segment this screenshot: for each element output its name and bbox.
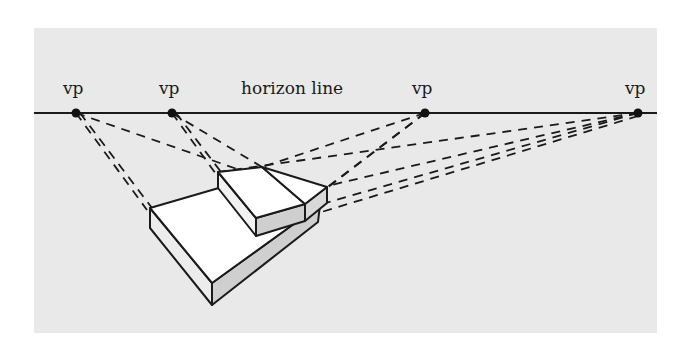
vp-label-4: vp <box>625 80 646 97</box>
construction-lines <box>76 113 638 217</box>
vp-dot-4 <box>634 109 643 118</box>
vp-dot-1 <box>72 109 81 118</box>
horizon-line-label: horizon line <box>241 80 343 97</box>
vp-label-3: vp <box>412 80 433 97</box>
vp-label-2: vp <box>159 80 180 97</box>
vp-label-1: vp <box>63 80 84 97</box>
perspective-diagram <box>0 0 686 350</box>
vp-dot-2 <box>168 109 177 118</box>
vp-dot-3 <box>421 109 430 118</box>
